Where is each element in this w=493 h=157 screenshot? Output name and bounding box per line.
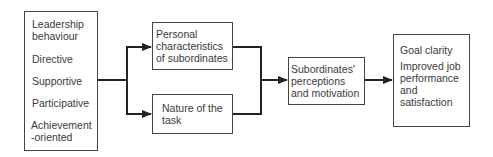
personal-line-3: of subordinates (156, 52, 232, 64)
outcomes-line-3: and (400, 84, 469, 96)
outcomes-line-2: performance (400, 72, 469, 84)
outcomes-line-1: Improved job (400, 60, 469, 72)
nature-of-task-box: Nature of the task (152, 94, 233, 134)
personal-characteristics-box: Personal characteristics of subordinates (152, 22, 233, 70)
perceptions-line-3: and motivation (291, 87, 364, 99)
item-oriented: -oriented (31, 131, 97, 143)
outcomes-line-4: satisfaction (400, 96, 469, 108)
item-directive: Directive (32, 53, 97, 65)
leadership-behaviour-box: Leadership behaviour Directive Supportiv… (24, 11, 98, 151)
item-supportive: Supportive (32, 75, 97, 87)
personal-line-2: characteristics (156, 40, 232, 52)
leadership-title-line-2: behaviour (32, 30, 97, 42)
goal-clarity: Goal clarity (400, 44, 469, 56)
perceptions-motivation-box: Subordinates' perceptions and motivation (288, 57, 365, 105)
personal-line-1: Personal (156, 28, 232, 40)
task-line-1: Nature of the (162, 102, 232, 114)
outcomes-box: Goal clarity Improved job performance an… (393, 34, 470, 127)
leadership-title-line-1: Leadership (32, 18, 97, 30)
perceptions-line-2: perceptions (291, 75, 364, 87)
item-participative: Participative (32, 97, 97, 109)
task-line-2: task (162, 114, 232, 126)
item-achievement: Achievement (31, 119, 97, 131)
perceptions-line-1: Subordinates' (291, 63, 364, 75)
